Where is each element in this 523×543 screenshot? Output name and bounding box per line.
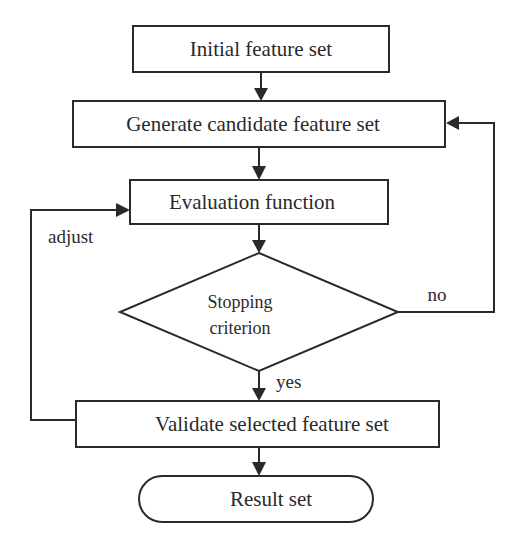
node-stopping-label-line1: Stopping <box>207 292 272 312</box>
node-generate-candidate-feature-set: Generate candidate feature set <box>73 101 445 147</box>
arrow-initial-to-generate <box>254 72 268 101</box>
arrowhead-left-icon <box>446 116 459 130</box>
edge-yes: yes <box>252 371 301 401</box>
arrowhead-down-icon <box>252 462 266 476</box>
arrowhead-down-icon <box>252 388 266 401</box>
edge-adjust: adjust <box>31 203 130 420</box>
edge-yes-label: yes <box>276 371 301 392</box>
edge-no-label: no <box>428 284 447 305</box>
node-result-label: Result set <box>230 487 312 511</box>
node-result-set: Result set <box>139 476 373 522</box>
node-initial-feature-set: Initial feature set <box>133 26 389 72</box>
arrowhead-down-icon <box>254 88 268 101</box>
node-validate-label: Validate selected feature set <box>155 412 389 436</box>
edge-adjust-label: adjust <box>48 226 94 247</box>
node-evaluation-function: Evaluation function <box>130 180 388 224</box>
arrow-generate-to-evaluation <box>252 147 266 180</box>
arrowhead-down-icon <box>252 166 266 180</box>
arrowhead-down-icon <box>252 240 266 253</box>
node-evaluation-label: Evaluation function <box>169 190 336 214</box>
arrow-evaluation-to-stopping <box>252 224 266 253</box>
arrowhead-right-icon <box>116 203 130 217</box>
node-validate-selected-feature-set: Validate selected feature set <box>76 401 439 447</box>
arrow-validate-to-result <box>252 447 266 476</box>
node-stopping-label-line2: criterion <box>210 318 271 338</box>
node-generate-label: Generate candidate feature set <box>126 112 380 136</box>
feature-selection-flowchart: Initial feature set Generate candidate f… <box>0 0 523 543</box>
node-initial-label: Initial feature set <box>190 37 332 61</box>
node-stopping-criterion: Stopping criterion <box>120 253 398 371</box>
